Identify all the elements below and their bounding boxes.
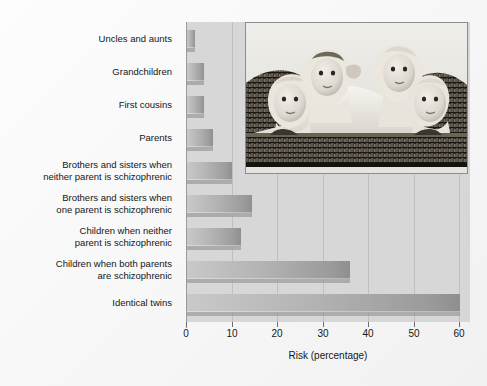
tick-label-10: 10 [215,328,249,339]
category-label-children-both-parents: Children when both parents are schizophr… [0,258,172,281]
category-labels: Uncles and aunts Grandchildren First cou… [0,22,180,322]
tick-mark-10 [232,322,233,327]
tick-mark-20 [277,322,278,327]
x-axis-title: Risk (percentage) [186,350,470,361]
bar-shadow [186,312,460,316]
bar-shadow [186,213,252,217]
category-label-brothers-sisters-one-parent: Brothers and sisters when one parent is … [0,192,172,215]
x-axis: 0 10 20 30 40 50 60 [186,322,470,328]
bar-shadow [186,48,195,52]
bar-shadow [186,246,241,250]
tick-mark-50 [414,322,415,327]
category-label-brothers-sisters-neither-parent: Brothers and sisters when neither parent… [0,159,172,182]
category-label-parents: Parents [0,132,172,144]
bar-identical-twins[interactable] [186,294,460,312]
bar-shadow [186,81,204,85]
category-label-grandchildren: Grandchildren [0,66,172,78]
bar-first-cousins[interactable] [186,96,204,114]
bar-children-neither-parent[interactable] [186,228,241,246]
tick-label-60: 60 [442,328,476,339]
bar-shadow [186,147,213,151]
bar-shadow [186,180,232,184]
category-label-children-neither-parent: Children when neither parent is schizoph… [0,225,172,248]
bar-shadow [186,114,204,118]
tick-label-40: 40 [351,328,385,339]
tick-label-30: 30 [306,328,340,339]
tick-mark-0 [186,322,187,327]
tick-mark-40 [368,322,369,327]
bar-shadow [186,279,350,283]
bar-uncles-and-aunts[interactable] [186,30,195,48]
quadruplet-babies-photo [245,22,468,174]
tick-mark-60 [459,322,460,327]
category-label-first-cousins: First cousins [0,99,172,111]
tick-label-0: 0 [169,328,203,339]
tick-label-50: 50 [397,328,431,339]
tick-label-20: 20 [260,328,294,339]
risk-of-schizophrenia-bar-chart: Uncles and aunts Grandchildren First cou… [0,0,487,386]
y-axis-line [186,22,187,328]
category-label-uncles-and-aunts: Uncles and aunts [0,33,172,45]
bar-brothers-sisters-neither-parent[interactable] [186,162,232,180]
bar-parents[interactable] [186,129,213,147]
bar-children-both-parents[interactable] [186,261,350,279]
tick-mark-30 [323,322,324,327]
category-label-identical-twins: Identical twins [0,297,172,309]
bar-brothers-sisters-one-parent[interactable] [186,195,252,213]
bar-grandchildren[interactable] [186,63,204,81]
